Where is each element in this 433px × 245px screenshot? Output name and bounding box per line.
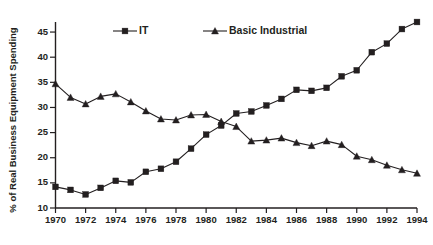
- x-tick-label: 1974: [105, 214, 127, 225]
- y-tick-label: 40: [37, 51, 48, 62]
- series-it: [53, 19, 420, 197]
- triangle-marker: [278, 135, 285, 141]
- x-tick-label: 1982: [226, 214, 247, 225]
- y-axis-title: % of Real Business Equipment Spending: [7, 27, 18, 212]
- square-marker: [83, 192, 89, 198]
- legend-item-basic-industrial[interactable]: Basic Industrial: [203, 24, 307, 36]
- series-basic-industrial: [52, 80, 421, 176]
- square-marker: [122, 28, 128, 34]
- y-tick-label: 35: [37, 76, 48, 87]
- y-axis-title-group: % of Real Business Equipment Spending: [7, 27, 18, 212]
- y-tick-label: 10: [37, 202, 48, 213]
- square-marker: [143, 169, 149, 175]
- x-tick-label: 1992: [376, 214, 397, 225]
- square-marker: [369, 49, 375, 55]
- square-marker: [354, 67, 360, 73]
- x-tick-label: 1972: [75, 214, 96, 225]
- triangle-marker: [323, 138, 330, 144]
- triangle-marker: [52, 80, 59, 86]
- y-tick-label: 15: [37, 176, 48, 187]
- series-line: [56, 22, 418, 194]
- y-tick-label: 25: [37, 126, 48, 137]
- triangle-marker: [383, 162, 390, 168]
- y-tick-label: 20: [37, 151, 48, 162]
- square-marker: [158, 166, 164, 172]
- x-tick-label: 1984: [256, 214, 278, 225]
- triangle-marker: [218, 118, 225, 124]
- y-tick-label: 45: [37, 26, 48, 37]
- x-tick-label: 1988: [316, 214, 337, 225]
- square-marker: [68, 187, 74, 193]
- triangle-marker: [142, 107, 149, 113]
- triangle-marker: [82, 100, 89, 106]
- x-tick-label: 1980: [196, 214, 217, 225]
- x-tick-label: 1970: [45, 214, 66, 225]
- triangle-marker: [112, 90, 119, 96]
- square-marker: [414, 19, 420, 25]
- x-tick-label: 1994: [406, 214, 428, 225]
- square-marker: [173, 159, 179, 165]
- chart-container: % of Real Business Equipment Spending 10…: [0, 0, 433, 245]
- square-marker: [339, 73, 345, 79]
- chart-legend: ITBasic Industrial: [113, 24, 307, 36]
- square-marker: [203, 132, 209, 138]
- square-marker: [294, 87, 300, 93]
- square-marker: [188, 146, 194, 152]
- data-series-group: [52, 19, 421, 197]
- x-tick-label: 1976: [135, 214, 156, 225]
- triangle-marker: [127, 98, 134, 104]
- square-marker: [98, 185, 104, 191]
- square-marker: [248, 109, 254, 115]
- square-marker: [324, 85, 330, 91]
- square-marker: [53, 184, 59, 190]
- legend-item-it[interactable]: IT: [113, 24, 149, 36]
- x-tick-label: 1978: [165, 214, 186, 225]
- square-marker: [128, 179, 134, 185]
- x-tick-label: 1990: [346, 214, 367, 225]
- legend-label: IT: [139, 24, 149, 36]
- x-tick-label: 1986: [286, 214, 307, 225]
- square-marker: [279, 96, 285, 102]
- x-axis-ticks: 1970197219741976197819801982198419861988…: [45, 208, 428, 225]
- y-tick-label: 30: [37, 101, 48, 112]
- square-marker: [113, 178, 119, 184]
- line-chart: % of Real Business Equipment Spending 10…: [0, 0, 433, 245]
- square-marker: [263, 103, 269, 109]
- legend-label: Basic Industrial: [229, 24, 307, 36]
- square-marker: [384, 41, 390, 47]
- square-marker: [399, 26, 405, 32]
- square-marker: [309, 88, 315, 94]
- square-marker: [233, 111, 239, 117]
